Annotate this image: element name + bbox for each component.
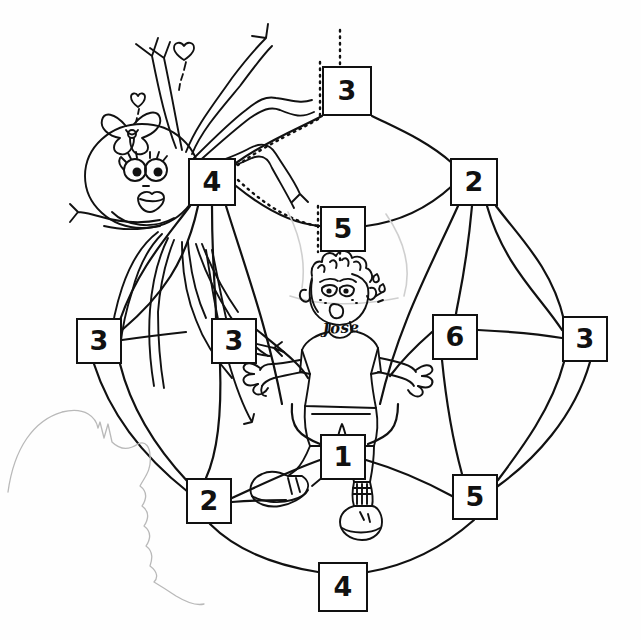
number-value: 3 <box>338 77 357 104</box>
number-value: 4 <box>203 168 222 195</box>
heart-icon <box>131 43 194 122</box>
number-value: 3 <box>576 325 595 352</box>
number-value: 6 <box>446 323 465 350</box>
number-value: 4 <box>334 573 353 600</box>
number-value: 2 <box>200 487 219 514</box>
number-box-lower-right[interactable]: 5 <box>452 474 498 520</box>
number-value: 1 <box>334 443 353 470</box>
number-value: 5 <box>334 215 353 242</box>
number-box-far-left[interactable]: 3 <box>76 318 122 364</box>
number-value: 2 <box>465 168 484 195</box>
number-box-mid-left[interactable]: 3 <box>211 318 257 364</box>
number-box-top[interactable]: 3 <box>322 66 372 116</box>
number-box-upper-left[interactable]: 4 <box>188 158 236 206</box>
number-box-lower-left[interactable]: 2 <box>186 478 232 524</box>
worksheet-canvas: Jose 3 4 2 5 3 3 6 3 1 2 5 4 <box>0 0 641 640</box>
number-box-bottom[interactable]: 4 <box>318 562 368 612</box>
number-box-mid-right[interactable]: 6 <box>432 314 478 360</box>
number-box-center-lower[interactable]: 1 <box>320 434 366 480</box>
number-value: 3 <box>225 327 244 354</box>
number-value: 5 <box>466 483 485 510</box>
pencil-smudge-icon <box>8 410 204 604</box>
number-value: 3 <box>90 327 109 354</box>
number-box-center-upper[interactable]: 5 <box>320 206 366 252</box>
number-box-far-right[interactable]: 3 <box>562 316 608 362</box>
number-box-upper-right[interactable]: 2 <box>450 158 498 206</box>
